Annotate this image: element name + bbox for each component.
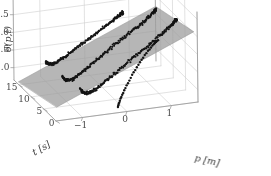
figure-3d-scatter: δ(p,t) t [s] p [m] — [0, 0, 271, 176]
axis-label-delta: δ(p,t) — [2, 26, 13, 52]
